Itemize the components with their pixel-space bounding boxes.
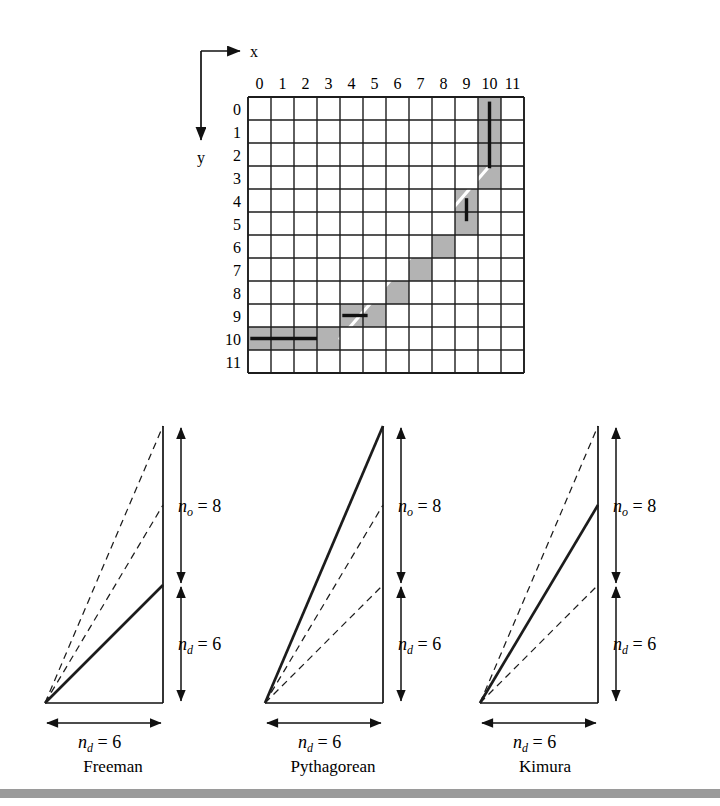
grid-cell-shaded — [386, 281, 409, 304]
label-nd-vertical: nd = 6 — [613, 634, 656, 657]
column-labels-group: 01234567891011 — [256, 75, 521, 92]
grid-column-label: 4 — [348, 75, 356, 92]
grid-cell-shaded — [432, 235, 455, 258]
grid-row-label: 8 — [233, 285, 241, 302]
label-no-vertical: no = 8 — [178, 496, 221, 519]
grid-row-label: 9 — [233, 308, 241, 325]
grid-column-label: 9 — [463, 75, 471, 92]
grid-row-label: 2 — [233, 147, 241, 164]
grid-row-label: 4 — [233, 193, 241, 210]
grid-column-label: 7 — [417, 75, 425, 92]
ray-dashed — [480, 426, 598, 703]
grid-row-label: 5 — [233, 216, 241, 233]
diagram-caption: Pythagorean — [291, 757, 376, 776]
grid-cell-shaded — [409, 258, 432, 281]
row-labels-group: 01234567891011 — [225, 101, 241, 371]
grid-row-label: 11 — [226, 354, 241, 371]
label-nd-horizontal: nd = 6 — [78, 732, 121, 755]
triangle-diagram-kimura: no = 8nd = 6nd = 6Kimura — [480, 426, 656, 776]
grid-column-label: 5 — [371, 75, 379, 92]
label-nd-vertical: nd = 6 — [398, 634, 441, 657]
grid-row-label: 10 — [225, 331, 241, 348]
grid-row-label: 3 — [233, 170, 241, 187]
footer-bar — [0, 789, 720, 798]
grid-column-label: 2 — [302, 75, 310, 92]
grid-cell-shaded — [317, 327, 340, 350]
label-nd-horizontal: nd = 6 — [298, 732, 341, 755]
y-axis-label: y — [197, 149, 205, 167]
diagram-caption: Kimura — [519, 757, 571, 776]
label-no-vertical: no = 8 — [398, 496, 441, 519]
grid-figure: x y 01234567891011 01234567891011 — [197, 43, 524, 373]
ray-dashed — [45, 426, 163, 703]
triangle-diagram-pythagorean: no = 8nd = 6nd = 6Pythagorean — [265, 426, 441, 776]
grid-column-label: 10 — [482, 75, 498, 92]
label-nd-vertical: nd = 6 — [178, 634, 221, 657]
shaded-cells-group — [248, 97, 501, 350]
grid-row-label: 0 — [233, 101, 241, 118]
grid-column-label: 3 — [325, 75, 333, 92]
ray-emphasized — [45, 585, 163, 703]
grid-column-label: 6 — [394, 75, 402, 92]
grid-row-label: 6 — [233, 239, 241, 256]
grid-column-label: 11 — [505, 75, 520, 92]
grid-row-label: 7 — [233, 262, 241, 279]
label-no-vertical: no = 8 — [613, 496, 656, 519]
figure-page: x y 01234567891011 01234567891011 no = 8… — [0, 0, 720, 806]
grid-column-label: 0 — [256, 75, 264, 92]
diagram-caption: Freeman — [83, 757, 143, 776]
ray-emphasized — [480, 505, 598, 703]
figure-canvas: x y 01234567891011 01234567891011 no = 8… — [0, 0, 720, 806]
ray-emphasized — [265, 426, 383, 703]
x-axis-label: x — [250, 43, 258, 60]
triangle-diagrams-group: no = 8nd = 6nd = 6Freemanno = 8nd = 6nd … — [45, 426, 656, 776]
triangle-diagram-freeman: no = 8nd = 6nd = 6Freeman — [45, 426, 221, 776]
grid-row-label: 1 — [233, 124, 241, 141]
label-nd-horizontal: nd = 6 — [513, 732, 556, 755]
ray-dashed — [265, 505, 383, 703]
ray-dashed — [265, 585, 383, 703]
grid-column-label: 8 — [440, 75, 448, 92]
grid-column-label: 1 — [279, 75, 287, 92]
